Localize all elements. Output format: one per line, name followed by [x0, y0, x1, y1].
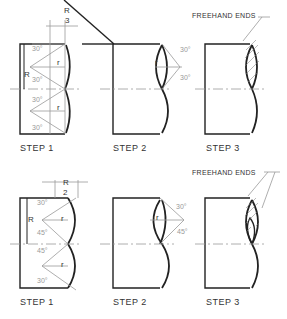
top-step2-label: STEP 2 [113, 143, 147, 153]
bottom-step2-r-label: r [156, 213, 159, 222]
top-step1-radius-label: R [24, 70, 30, 79]
angle-label: 30° [37, 199, 48, 206]
top-step1-r-label-2: r [57, 103, 60, 112]
angle-label: 30° [180, 46, 191, 53]
top-step3-label: STEP 3 [206, 143, 240, 153]
bottom-step1-fraction-num: R [63, 178, 69, 187]
angle-label: 30° [32, 96, 43, 103]
bottom-step1-radius-label: R [28, 215, 34, 224]
bottom-step1-r-label: r [61, 214, 64, 223]
angle-label: 45° [37, 229, 48, 236]
bottom-step1-fraction-den: 2 [63, 188, 67, 197]
angle-label: 30° [32, 124, 43, 131]
angle-label: 30° [37, 277, 48, 284]
top-step3-note: FREEHAND ENDS [192, 12, 256, 19]
angle-label: 45° [37, 247, 48, 254]
angle-label: 45° [177, 228, 188, 235]
top-step1-label: STEP 1 [20, 143, 54, 153]
bottom-step2-label: STEP 2 [113, 297, 147, 307]
angle-label: 30° [176, 203, 187, 210]
top-step1-fraction-den: 3 [65, 16, 69, 25]
bottom-step3-note: FREEHAND ENDS [192, 169, 256, 176]
angle-label: 30° [32, 45, 43, 52]
bottom-step3-label: STEP 3 [206, 297, 240, 307]
top-step1-fraction-num: R [64, 6, 70, 15]
bottom-step1-label: STEP 1 [20, 297, 54, 307]
angle-label: 30° [180, 74, 191, 81]
top-step2-r-label: r [155, 58, 158, 67]
bottom-step1-r-label-2: r [61, 260, 64, 269]
drawing-canvas [0, 0, 287, 319]
top-step1-r-label: r [57, 58, 60, 67]
angle-label: 30° [32, 76, 43, 83]
